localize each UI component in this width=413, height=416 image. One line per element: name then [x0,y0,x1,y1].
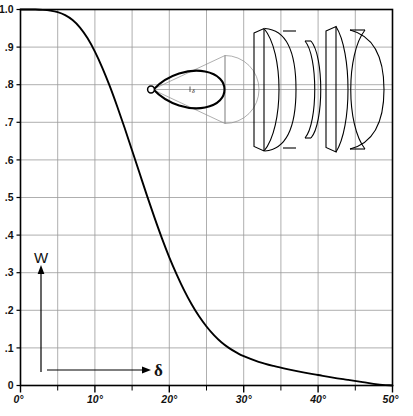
y-tick-label: .4 [5,229,14,241]
x-tick-label: 30° [236,393,253,405]
y-tick-label: .1 [5,342,14,354]
chart-svg: 1.0.9.8.7.6.5.4.3.2.10 0°10°20°30°40°50°… [0,0,413,416]
y-tick-label: 0 [8,379,14,391]
y-tick-label: .2 [5,304,14,316]
y-tick-label: .7 [5,116,14,128]
y-tick-label: .5 [5,191,14,203]
x-axis-label: δ [154,361,163,380]
y-tick-label: .9 [5,41,14,53]
y-axis-ticks: 1.0.9.8.7.6.5.4.3.2.10 [0,3,21,391]
y-tick-label: .3 [5,266,14,278]
x-tick-label: 40° [309,393,327,405]
y-tick-label: .8 [5,78,14,90]
y-axis-label: W [34,249,49,266]
y-tick-label: .6 [5,154,14,166]
figure-root: 1.0.9.8.7.6.5.4.3.2.10 0°10°20°30°40°50°… [0,0,413,416]
delta-axis-indicator: δ [47,361,163,380]
x-tick-label: 20° [160,393,178,405]
x-axis-ticks: 0°10°20°30°40°50° [13,386,399,405]
w-arrow-head [38,265,45,274]
x-tick-label: 50° [383,393,400,405]
y-tick-label: 1.0 [0,3,14,15]
cone-vertex-point [148,86,155,93]
delta-arrow-head [142,367,151,374]
x-tick-label: 10° [87,393,104,405]
x-tick-label: 0° [13,393,24,405]
cone-delta-label: δ [192,88,195,94]
